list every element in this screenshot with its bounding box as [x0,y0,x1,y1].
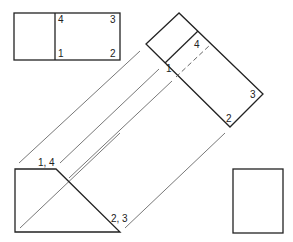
aux-label-2: 2 [226,113,232,124]
side-view-outline [233,169,283,233]
front-view-outline [15,169,120,232]
projection-line [20,133,120,228]
projection-lines [19,51,225,228]
front-label-1-4: 1, 4 [38,157,55,168]
projection-line [125,133,225,228]
hidden-edge [176,45,210,77]
top-label-2: 2 [110,48,116,59]
auxiliary-view [146,13,263,127]
top-label-3: 3 [110,14,116,25]
side-view [233,169,283,233]
front-view [15,169,120,232]
projection-line [19,51,140,163]
auxiliary-outline [146,13,263,127]
front-label-2-3: 2, 3 [111,213,128,224]
drawing-canvas: 4 3 1 2 4 1 3 2 1, 4 2, 3 [0,0,293,242]
top-label-1: 1 [58,48,64,59]
aux-label-1: 1 [166,63,172,74]
top-view-outline [14,13,120,60]
projection-line [69,81,172,178]
top-label-4: 4 [58,14,64,25]
top-view [14,13,120,60]
aux-label-3: 3 [250,89,256,100]
projection-line [60,69,159,163]
aux-label-4: 4 [194,39,200,50]
